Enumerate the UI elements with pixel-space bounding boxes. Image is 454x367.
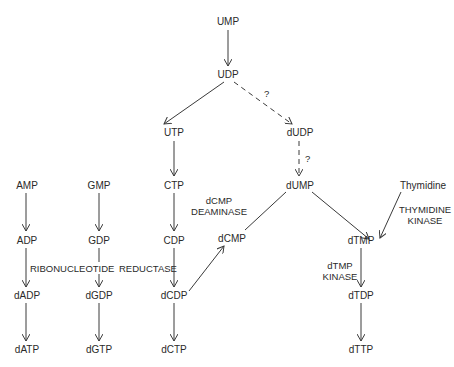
node-gmp: GMP — [88, 180, 111, 191]
enzyme-ribonucleotide-label: RIBONUCLEOTIDE — [30, 263, 114, 274]
node-dadp: dADP — [14, 290, 40, 301]
node-ctp: CTP — [164, 180, 184, 191]
node-dttp: dTTP — [349, 344, 374, 355]
node-dcdp: dCDP — [161, 290, 188, 301]
node-dtmp: dTMP — [348, 235, 375, 246]
node-dctp: dCTP — [161, 344, 187, 355]
node-dump: dUMP — [286, 180, 314, 191]
node-gdp: GDP — [88, 235, 110, 246]
enzyme-thymidine-kinase-line1: THYMIDINE — [399, 204, 451, 215]
edges — [26, 30, 401, 341]
node-dtdp: dTDP — [348, 290, 374, 301]
nodes: UMP UDP UTP dUDP CTP dUMP AMP GMP ADP GD… — [14, 16, 447, 355]
edge-udp-utp — [164, 82, 224, 124]
edge-udp-dudp — [234, 82, 292, 124]
enzyme-reductase-label: REDUCTASE — [119, 263, 177, 274]
uncertain-mark-dudp-dump: ? — [305, 153, 310, 164]
node-thymidine: Thymidine — [400, 180, 447, 191]
enzyme-dtmp-kinase-line1: dTMP — [327, 260, 352, 271]
node-cdp: CDP — [163, 235, 184, 246]
node-dcmp: dCMP — [218, 233, 246, 244]
enzyme-dcmp-deaminase-line1: dCMP — [206, 195, 232, 206]
uncertain-mark-udp-dudp: ? — [264, 88, 269, 99]
node-datp: dATP — [15, 344, 40, 355]
edge-dcdp-dcmp — [189, 246, 224, 291]
enzyme-dcmp-deaminase-line2: DEAMINASE — [191, 206, 247, 217]
edge-dcmp-dump — [245, 192, 286, 230]
node-utp: UTP — [164, 127, 184, 138]
enzyme-dtmp-kinase-line2: KINASE — [323, 271, 358, 282]
node-adp: ADP — [17, 235, 38, 246]
node-ump: UMP — [217, 16, 240, 27]
edge-thymidine-dtmp — [380, 192, 401, 238]
node-udp: UDP — [217, 69, 238, 80]
enzyme-thymidine-kinase-line2: KINASE — [408, 215, 443, 226]
node-amp: AMP — [16, 180, 38, 191]
node-dgtp: dGTP — [86, 344, 112, 355]
node-dgdp: dGDP — [85, 290, 113, 301]
node-dudp: dUDP — [287, 127, 314, 138]
nucleotide-pathway-diagram: UMP UDP UTP dUDP CTP dUMP AMP GMP ADP GD… — [0, 0, 454, 367]
edge-dump-dtmp — [312, 192, 369, 239]
